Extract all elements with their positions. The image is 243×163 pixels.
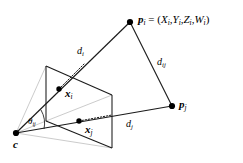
label-pj-subscript: j — [185, 103, 187, 112]
label-dj-subscript: j — [131, 123, 133, 130]
theta-arc-path — [41, 110, 45, 129]
label-angle-theta: θij — [28, 117, 36, 127]
viewing-rays — [16, 22, 172, 133]
dotted-leader-xi — [59, 64, 84, 89]
plane-edge-bottom — [46, 121, 112, 148]
angle-arc-theta — [41, 110, 45, 129]
label-pi-coord-W: W — [194, 13, 203, 25]
frustum-edge-far-bottom — [16, 133, 112, 148]
label-distance-di: di — [77, 46, 84, 58]
marker-point-pi — [127, 19, 133, 25]
frustum-faint-lines — [16, 66, 112, 148]
marker-camera-centre — [13, 130, 19, 136]
label-point-pi-equation: pi = (Xi,Yi,Zi,Wi) — [138, 14, 209, 27]
marker-point-xi — [56, 86, 61, 91]
label-distance-dj: dj — [126, 119, 133, 131]
label-di-subscript: i — [82, 50, 84, 57]
marker-point-xj — [76, 118, 81, 123]
label-xi-subscript: i — [71, 92, 73, 101]
label-point-pj: pj — [179, 99, 187, 112]
image-plane-quad — [46, 66, 112, 148]
label-xj-subscript: j — [91, 128, 93, 137]
marker-point-pj — [169, 103, 175, 109]
label-theta-subscript: ij — [32, 121, 35, 127]
label-pi-coord-X: X — [161, 13, 168, 25]
label-distance-dij: dij — [157, 57, 166, 69]
label-point-xi: xi — [65, 88, 73, 101]
label-pi-equals: = ( — [146, 13, 161, 25]
label-camera-centre: c — [13, 139, 18, 150]
label-c-symbol: c — [13, 138, 18, 150]
dotted-leader-xj — [79, 115, 112, 121]
label-pi-close-paren: ) — [206, 13, 210, 25]
label-point-xj: xj — [85, 124, 93, 137]
camera-projection-figure: pi = (Xi,Yi,Zi,Wi) pj xi xj c di dij dj … — [0, 0, 243, 163]
label-dij-subscript: ij — [162, 61, 166, 68]
plane-edge-top — [46, 66, 112, 95]
